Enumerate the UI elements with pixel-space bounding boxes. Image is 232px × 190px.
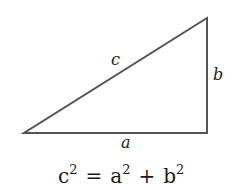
eq-a-exp: 2: [122, 162, 130, 177]
horizontal-leg-label: a: [121, 133, 131, 152]
eq-c: c: [58, 164, 69, 188]
eq-b: b: [163, 164, 176, 188]
svg-text:c2=a2+b2: c2=a2+b2: [58, 162, 184, 188]
right-triangle: [24, 18, 207, 133]
eq-equals: =: [85, 164, 102, 188]
eq-b-exp: 2: [176, 162, 184, 177]
eq-plus: +: [138, 164, 155, 188]
eq-a: a: [110, 164, 122, 188]
triangle-diagram: c b a c2=a2+b2: [0, 0, 232, 190]
hypotenuse-label: c: [111, 50, 120, 69]
vertical-leg-label: b: [213, 65, 223, 84]
pythagorean-equation: c2=a2+b2: [58, 162, 184, 188]
eq-c-exp: 2: [69, 162, 77, 177]
